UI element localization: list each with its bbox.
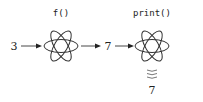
arrow-input-to-f [21,44,42,49]
function-pipeline-diagram: 3 f() 7 print() 7 [0,0,203,102]
intermediate-value: 7 [105,40,112,53]
function-print-label: print() [133,8,171,18]
atom-icon [44,28,78,64]
arrow-f-to-value [81,44,101,49]
wavy-lines-icon [147,70,157,78]
arrow-value-to-print [115,44,134,49]
output-value: 7 [149,84,156,97]
function-f-label: f() [53,8,69,18]
input-value: 3 [11,40,18,53]
atom-icon [135,28,169,64]
